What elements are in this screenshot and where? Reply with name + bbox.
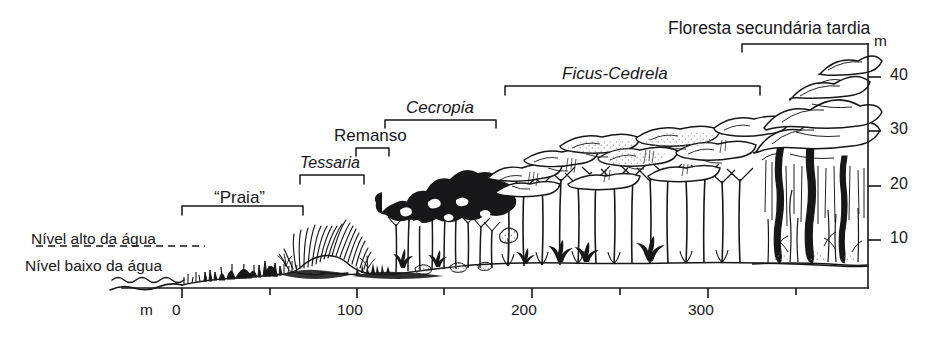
ficus-small-treelet <box>500 228 518 266</box>
x-axis-tick-label-300: 300 <box>688 302 714 318</box>
zone-label-praia: “Praia” <box>214 189 265 206</box>
x-axis-tick-label-200: 200 <box>511 302 537 318</box>
y-axis-tick-label-30: 30 <box>890 121 908 137</box>
zone-label-ficus-cedrela: Ficus-Cedrela <box>562 65 668 82</box>
zone-label-tessaria: Tessaria <box>300 155 360 171</box>
water-level-label-alto: Nível alto da água <box>31 231 156 247</box>
bracket-remanso <box>356 148 389 156</box>
y-axis-tick-label-40: 40 <box>890 67 908 83</box>
floresta-crowns <box>753 56 882 153</box>
y-axis-tick-label-20: 20 <box>890 176 908 192</box>
zone-floresta-tardia-vegetation <box>752 56 882 265</box>
cecropia-fallen-logs <box>415 262 492 274</box>
axes <box>122 44 868 288</box>
bracket-tessaria <box>300 175 364 184</box>
zone-tessaria-vegetation <box>278 220 375 275</box>
succession-profile-figure <box>0 0 929 343</box>
zone-label-cecropia: Cecropia <box>406 99 474 116</box>
y-axis-tick-label-10: 10 <box>890 230 908 246</box>
bracket-floresta <box>742 44 868 52</box>
zone-label-floresta: Floresta secundária tardia <box>668 20 870 38</box>
x-axis-tick-label-0: 0 <box>172 302 181 318</box>
x-axis-ticks <box>182 288 796 298</box>
floresta-understory <box>776 232 862 252</box>
y-axis-unit-label: m <box>874 33 887 49</box>
x-axis-unit-label: m <box>140 302 153 318</box>
drawing-layer <box>36 56 882 290</box>
zone-label-remanso: Remanso <box>334 127 407 144</box>
x-axis-tick-label-100: 100 <box>337 302 363 318</box>
zone-praia-vegetation <box>184 261 297 284</box>
zone-ficus-cedrela-vegetation <box>488 116 790 266</box>
zone-cecropia-vegetation <box>375 170 516 274</box>
water-level-label-baixo: Nível baixo da água <box>25 258 162 274</box>
low-water-line <box>112 278 184 283</box>
bracket-praia <box>182 206 303 215</box>
bracket-ficus <box>505 86 760 95</box>
ground-profile <box>110 256 868 290</box>
y-axis-ticks <box>868 77 881 240</box>
